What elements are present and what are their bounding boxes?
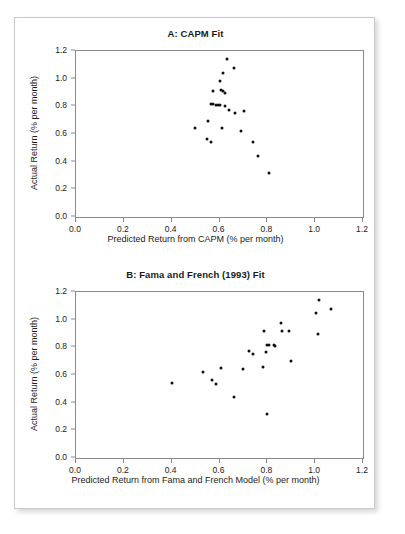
x-tick-label: 1.2 xyxy=(347,224,377,234)
x-tick-label: 0.4 xyxy=(156,465,186,475)
y-tick-mark xyxy=(71,105,75,106)
y-tick-label: 1.2 xyxy=(41,45,67,55)
data-point xyxy=(317,299,320,302)
x-tick-label: 0.2 xyxy=(108,465,138,475)
panel-a-title: A: CAPM Fit xyxy=(15,28,376,39)
panel-b-x-axis-title: Predicted Return from Fama and French Mo… xyxy=(15,475,376,485)
x-tick-mark xyxy=(75,459,76,463)
x-tick-label: 0.8 xyxy=(251,224,281,234)
x-tick-mark xyxy=(219,459,220,463)
y-tick-mark xyxy=(71,318,75,319)
x-tick-mark xyxy=(266,459,267,463)
y-tick-mark xyxy=(71,216,75,217)
data-point xyxy=(252,352,255,355)
data-point xyxy=(265,351,268,354)
x-tick-label: 0.0 xyxy=(60,224,90,234)
y-tick-mark xyxy=(71,133,75,134)
y-tick-mark xyxy=(71,291,75,292)
x-tick-mark xyxy=(314,218,315,222)
data-point xyxy=(268,343,271,346)
data-point xyxy=(228,109,231,112)
data-point xyxy=(242,367,245,370)
data-point xyxy=(317,332,320,335)
y-tick-label: 1.2 xyxy=(41,286,67,296)
panel-a-y-axis-title: Actual Return (% per month) xyxy=(29,76,39,190)
data-point xyxy=(210,378,213,381)
y-tick-mark xyxy=(71,50,75,51)
data-point xyxy=(214,382,217,385)
y-tick-mark xyxy=(71,346,75,347)
data-point xyxy=(219,367,222,370)
data-point xyxy=(281,330,284,333)
y-tick-label: 0.6 xyxy=(41,128,67,138)
data-point xyxy=(262,330,265,333)
data-point xyxy=(212,90,215,93)
panel-a-plot-area xyxy=(75,50,364,218)
data-point xyxy=(232,396,235,399)
y-tick-mark xyxy=(71,457,75,458)
data-point xyxy=(262,366,265,369)
panel-b-title: B: Fama and French (1993) Fit xyxy=(15,269,376,280)
data-point xyxy=(226,58,229,61)
data-point xyxy=(170,382,173,385)
y-tick-label: 0.0 xyxy=(41,211,67,221)
data-point xyxy=(221,126,224,129)
data-point xyxy=(207,119,210,122)
data-point xyxy=(224,105,227,108)
x-tick-mark xyxy=(219,218,220,222)
data-point xyxy=(210,141,213,144)
y-tick-label: 0.8 xyxy=(41,100,67,110)
data-point xyxy=(219,103,222,106)
y-tick-label: 0.2 xyxy=(41,424,67,434)
data-point xyxy=(279,322,282,325)
x-tick-mark xyxy=(171,218,172,222)
x-tick-label: 0.8 xyxy=(251,465,281,475)
data-point xyxy=(205,137,208,140)
x-tick-mark xyxy=(123,218,124,222)
data-point xyxy=(315,312,318,315)
x-tick-mark xyxy=(314,459,315,463)
data-point xyxy=(268,171,271,174)
data-point xyxy=(247,350,250,353)
y-tick-label: 0.2 xyxy=(41,183,67,193)
data-point xyxy=(232,66,235,69)
figure-frame: A: CAPM Fit Actual Return (% per month) … xyxy=(14,17,375,509)
data-point xyxy=(240,129,243,132)
data-point xyxy=(194,126,197,129)
y-tick-label: 0.0 xyxy=(41,452,67,462)
y-tick-label: 1.0 xyxy=(41,73,67,83)
x-tick-mark xyxy=(362,459,363,463)
data-point xyxy=(257,155,260,158)
x-tick-label: 0.6 xyxy=(204,465,234,475)
data-point xyxy=(251,141,254,144)
x-tick-label: 1.0 xyxy=(299,465,329,475)
x-tick-label: 0.2 xyxy=(108,224,138,234)
x-tick-label: 1.0 xyxy=(299,224,329,234)
x-tick-label: 1.2 xyxy=(347,465,377,475)
y-tick-label: 0.8 xyxy=(41,341,67,351)
x-tick-label: 0.4 xyxy=(156,224,186,234)
y-tick-label: 0.4 xyxy=(41,156,67,166)
panel-b-y-axis-title: Actual Return (% per month) xyxy=(29,317,39,431)
panel-capm-fit: A: CAPM Fit Actual Return (% per month) … xyxy=(15,18,376,264)
y-tick-label: 0.6 xyxy=(41,369,67,379)
y-tick-label: 0.4 xyxy=(41,397,67,407)
y-tick-mark xyxy=(71,188,75,189)
panel-a-x-axis-title: Predicted Return from CAPM (% per month) xyxy=(15,234,376,244)
data-point xyxy=(290,360,293,363)
data-point xyxy=(221,72,224,75)
data-point xyxy=(330,307,333,310)
data-point xyxy=(273,344,276,347)
panel-b-plot-area xyxy=(75,291,364,459)
data-point xyxy=(243,110,246,113)
y-tick-mark xyxy=(71,401,75,402)
data-point xyxy=(218,80,221,83)
panel-fama-french-fit: B: Fama and French (1993) Fit Actual Ret… xyxy=(15,258,376,504)
data-point xyxy=(201,370,204,373)
y-tick-label: 1.0 xyxy=(41,314,67,324)
data-point xyxy=(223,91,226,94)
x-tick-label: 0.6 xyxy=(204,224,234,234)
x-tick-mark xyxy=(362,218,363,222)
x-tick-mark xyxy=(266,218,267,222)
data-point xyxy=(266,412,269,415)
